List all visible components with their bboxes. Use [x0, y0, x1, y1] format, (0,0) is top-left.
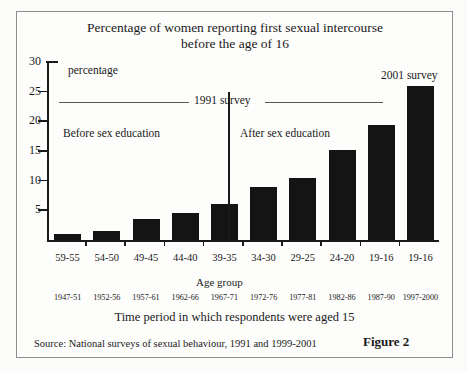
y-tick-label-20: 20	[19, 114, 41, 126]
y-axis-unit-label: percentage	[68, 64, 118, 76]
chart-title: Percentage of women reporting first sexu…	[60, 20, 410, 52]
y-tick-label-5: 5	[19, 203, 41, 215]
x-tick-5	[281, 240, 283, 246]
bar-34-30-5	[250, 187, 277, 240]
annotation-2001-survey: 2001 survey	[381, 69, 438, 82]
y-tick-30	[46, 61, 58, 63]
x-tick-0	[85, 240, 87, 246]
category-label-9: 19-16	[394, 252, 446, 264]
x-tick-6	[320, 240, 322, 246]
y-axis-line	[47, 62, 49, 242]
x-tick-3	[203, 240, 205, 246]
x-axis-title: Age group	[196, 276, 243, 288]
x-tick-8	[399, 240, 401, 246]
bar-29-25-6	[289, 178, 316, 240]
figure-container: Percentage of women reporting first sexu…	[0, 0, 467, 371]
bar-24-20-7	[329, 150, 356, 240]
y-tick-label-25: 25	[19, 85, 41, 97]
y-tick-label-15: 15	[19, 144, 41, 156]
figure-label: Figure 2	[363, 334, 409, 350]
annotation-1991-survey: 1991 survey	[194, 94, 251, 107]
y-tick-label-10: 10	[19, 174, 41, 186]
chart-title-line-1: Percentage of women reporting first sexu…	[60, 20, 410, 36]
x-tick-4	[242, 240, 244, 246]
bar-44-40-3	[172, 213, 199, 240]
time-period-caption: Time period in which respondents were ag…	[16, 310, 453, 325]
chart-title-line-2: before the age of 16	[60, 36, 410, 52]
group-divider-line	[228, 92, 230, 242]
period-label-9: 1997-2000	[394, 293, 446, 303]
annotation-before-sex-education: Before sex education	[63, 127, 160, 140]
x-tick-7	[360, 240, 362, 246]
source-note: Source: National surveys of sexual behav…	[34, 338, 317, 349]
bar-19-16-8	[368, 125, 395, 240]
annotation-after-sex-education: After sex education	[240, 127, 330, 140]
bar-49-45-2	[133, 219, 160, 240]
y-tick-label-30: 30	[19, 55, 41, 67]
bar-39-35-4	[211, 204, 238, 240]
bar-59-55-0	[54, 234, 81, 240]
survey-1991-rule-left	[59, 102, 189, 103]
x-tick-2	[164, 240, 166, 246]
survey-1991-rule-right	[265, 102, 383, 103]
x-tick-1	[124, 240, 126, 246]
bar-54-50-1	[93, 231, 120, 240]
bar-19-16-9	[407, 86, 434, 240]
